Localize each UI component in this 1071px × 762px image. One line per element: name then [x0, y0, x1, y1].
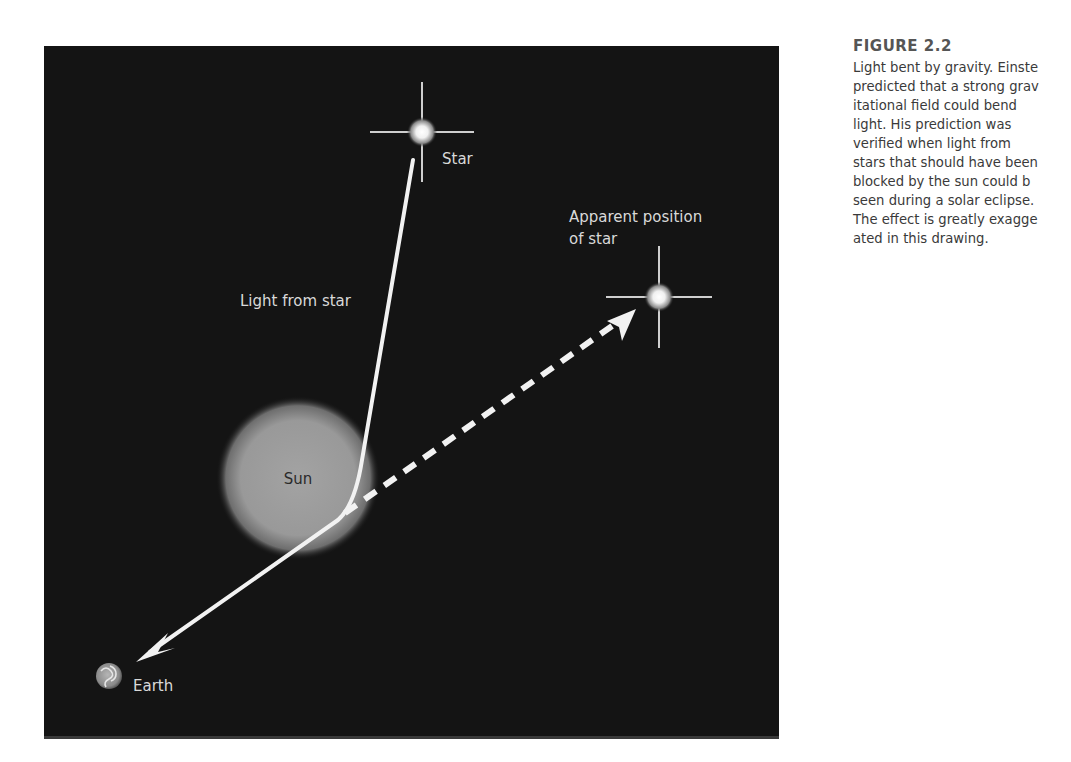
- arrowhead-to-apparent-star-icon: [607, 309, 636, 341]
- caption-line: blocked by the sun could b: [853, 174, 1030, 189]
- apparent-position-label-line2: of star: [569, 230, 618, 248]
- caption-line: The effect is greatly exagge: [853, 212, 1038, 227]
- caption-line: seen during a solar eclipse.: [853, 193, 1034, 208]
- caption-line: Light bent by gravity. Einste: [853, 60, 1038, 75]
- apparent-direction-dashed-line: [345, 324, 615, 513]
- caption-line: itational field could bend: [853, 98, 1017, 113]
- apparent-position-label-line1: Apparent position: [569, 208, 702, 226]
- sun: Sun: [216, 396, 380, 560]
- caption-line: stars that should have been: [853, 155, 1038, 170]
- light-from-star-label: Light from star: [240, 292, 352, 310]
- caption-line: light. His prediction was: [853, 117, 1011, 132]
- figure-caption-body: Light bent by gravity. Einste predicted …: [853, 58, 1071, 248]
- figure-caption: FIGURE 2.2 Light bent by gravity. Einste…: [853, 36, 1071, 248]
- caption-line: verified when light from: [853, 136, 1011, 151]
- earth-label: Earth: [133, 677, 173, 695]
- figure-title: FIGURE 2.2: [853, 36, 1071, 56]
- sun-label: Sun: [284, 470, 313, 488]
- caption-line: ated in this drawing.: [853, 231, 989, 246]
- caption-line: predicted that a strong grav: [853, 79, 1039, 94]
- star-label: Star: [442, 150, 474, 168]
- earth-icon: [96, 663, 122, 689]
